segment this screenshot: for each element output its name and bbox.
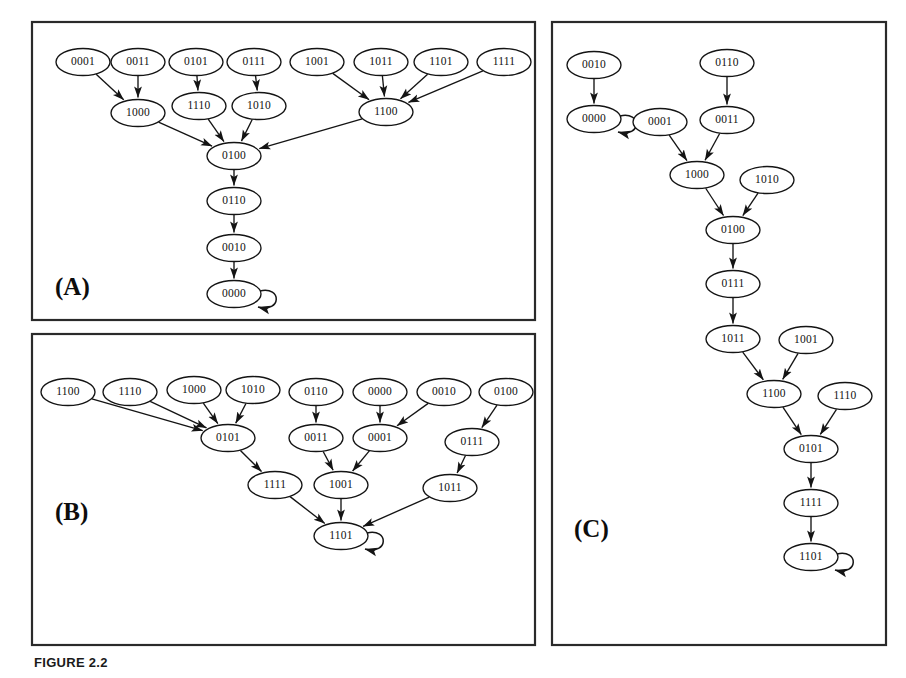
- state-node[interactable]: 0101: [201, 425, 255, 452]
- edge-1010-to-0100: [743, 193, 758, 215]
- node-label: 0101: [216, 431, 240, 443]
- state-node[interactable]: 1010: [226, 377, 280, 404]
- node-label: 0100: [494, 385, 518, 397]
- edge-1010-to-0101: [236, 404, 246, 424]
- edge-1000-to-0100: [706, 188, 724, 215]
- edge-0001-to-1001: [353, 451, 370, 471]
- edge-1011-to-1100: [382, 76, 384, 97]
- state-node[interactable]: 1011: [706, 326, 760, 353]
- state-node[interactable]: 0101: [784, 436, 838, 463]
- edge-1010-to-0100: [241, 120, 252, 142]
- node-label: 1001: [329, 478, 353, 490]
- edge-1100-to-0101: [783, 407, 801, 434]
- state-node[interactable]: 1000: [670, 162, 724, 189]
- node-label: 1110: [119, 385, 142, 397]
- edge-0010-to-0001: [397, 403, 428, 425]
- edge-1000-to-0100: [159, 122, 212, 146]
- state-node[interactable]: 0111: [445, 429, 499, 456]
- state-node[interactable]: 0111: [227, 49, 281, 76]
- node-label: 0100: [721, 223, 745, 235]
- node-label: 1101: [329, 529, 352, 541]
- state-node[interactable]: 0101: [169, 49, 223, 76]
- state-node[interactable]: 0111: [706, 271, 760, 298]
- state-node[interactable]: 1100: [359, 99, 413, 126]
- node-label: 1101: [429, 55, 452, 67]
- edge-0111-to-1011: [457, 456, 465, 473]
- node-label: 1000: [126, 106, 150, 118]
- state-node[interactable]: 0100: [479, 379, 533, 406]
- state-node[interactable]: 1011: [354, 49, 408, 76]
- node-label: 1110: [188, 99, 211, 111]
- state-node[interactable]: 0110: [289, 379, 343, 406]
- state-node[interactable]: 0011: [700, 107, 754, 134]
- panel-b: 1100111010001010011000000010010001010011…: [32, 334, 535, 645]
- node-label: 0110: [715, 56, 738, 68]
- state-node[interactable]: 0000: [207, 281, 261, 308]
- state-node[interactable]: 0010: [567, 52, 621, 79]
- node-label: 1001: [794, 333, 818, 345]
- state-node[interactable]: 0001: [353, 425, 407, 452]
- state-node[interactable]: 0110: [700, 50, 754, 77]
- state-node[interactable]: 1001: [779, 327, 833, 354]
- state-node[interactable]: 1101: [314, 523, 368, 550]
- edge-0100-to-0111: [482, 405, 497, 427]
- edge-0111-to-1010: [256, 76, 258, 91]
- state-node[interactable]: 1110: [818, 383, 872, 410]
- node-label: 0101: [799, 442, 823, 454]
- node-label: 1001: [305, 55, 329, 67]
- edge-1011-to-1101: [363, 497, 429, 526]
- node-label: 0111: [722, 277, 745, 289]
- state-node[interactable]: 1001: [290, 49, 344, 76]
- state-node[interactable]: 1001: [314, 472, 368, 499]
- node-label: 1010: [755, 173, 779, 185]
- panel-label-c: (C): [574, 515, 609, 543]
- node-label: 1111: [264, 478, 287, 490]
- state-node[interactable]: 1111: [477, 49, 531, 76]
- state-node[interactable]: 0100: [207, 143, 261, 170]
- state-node[interactable]: 1011: [423, 475, 477, 502]
- node-label: 0000: [368, 385, 392, 397]
- state-node[interactable]: 0011: [111, 49, 165, 76]
- edge-1000-to-0101: [203, 403, 218, 424]
- state-node[interactable]: 0001: [633, 109, 687, 136]
- node-label: 1100: [56, 385, 79, 397]
- state-node[interactable]: 1111: [784, 490, 838, 517]
- node-label: 0100: [222, 149, 246, 161]
- node-label: 0111: [461, 435, 484, 447]
- state-node[interactable]: 0110: [207, 188, 261, 215]
- state-node[interactable]: 0000: [353, 379, 407, 406]
- panel-label-a: (A): [55, 273, 90, 301]
- state-node[interactable]: 1101: [784, 544, 838, 571]
- edge-1001-to-1100: [333, 73, 369, 99]
- node-label: 1010: [247, 99, 271, 111]
- edge-1100-to-0100: [259, 119, 362, 149]
- state-node[interactable]: 1110: [172, 93, 226, 120]
- state-node[interactable]: 0000: [567, 106, 621, 133]
- state-node[interactable]: 1000: [167, 377, 221, 404]
- node-label: 0101: [184, 55, 208, 67]
- node-label: 1110: [834, 389, 857, 401]
- edge-1001-to-1100: [783, 353, 798, 379]
- node-label: 1000: [182, 383, 206, 395]
- state-node[interactable]: 1010: [232, 93, 286, 120]
- panel-label-b: (B): [55, 498, 88, 526]
- edge-1011-to-1100: [743, 352, 764, 380]
- state-node[interactable]: 1010: [740, 167, 794, 194]
- state-node[interactable]: 1101: [414, 49, 468, 76]
- state-node[interactable]: 0010: [207, 235, 261, 262]
- state-node[interactable]: 1100: [747, 381, 801, 408]
- node-label: 1100: [762, 387, 785, 399]
- node-label: 0011: [715, 113, 738, 125]
- state-node[interactable]: 1110: [103, 379, 157, 406]
- edge-1101-to-1100: [400, 74, 427, 99]
- state-node[interactable]: 1000: [111, 100, 165, 127]
- state-node[interactable]: 0001: [56, 49, 110, 76]
- state-node[interactable]: 1111: [248, 472, 302, 499]
- state-node[interactable]: 0011: [289, 425, 343, 452]
- state-node[interactable]: 0010: [417, 379, 471, 406]
- edge-0101-to-1110: [197, 76, 198, 91]
- node-label: 0001: [71, 55, 95, 67]
- state-node[interactable]: 0100: [706, 217, 760, 244]
- node-label: 1111: [800, 496, 823, 508]
- state-node[interactable]: 1100: [41, 379, 95, 406]
